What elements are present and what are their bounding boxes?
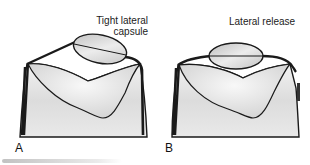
cut-retinaculum-b bbox=[297, 83, 300, 101]
truncated-caption bbox=[2, 159, 122, 163]
label-a-line1: Tight lateral bbox=[75, 15, 148, 26]
label-a-line2: capsule bbox=[95, 26, 148, 37]
panel-a bbox=[20, 30, 147, 137]
label-tight-lateral-capsule: Tight lateral capsule bbox=[95, 15, 148, 37]
panel-letter-b: B bbox=[165, 141, 173, 155]
panel-b bbox=[172, 43, 300, 137]
label-lateral-release: Lateral release bbox=[229, 16, 295, 27]
panel-letter-a: A bbox=[15, 141, 23, 155]
